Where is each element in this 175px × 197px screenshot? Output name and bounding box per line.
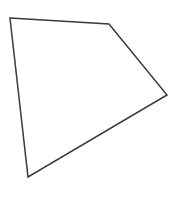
diagram-svg — [0, 0, 175, 197]
quadrilateral-shape — [10, 18, 167, 177]
diagram-canvas — [0, 0, 175, 197]
